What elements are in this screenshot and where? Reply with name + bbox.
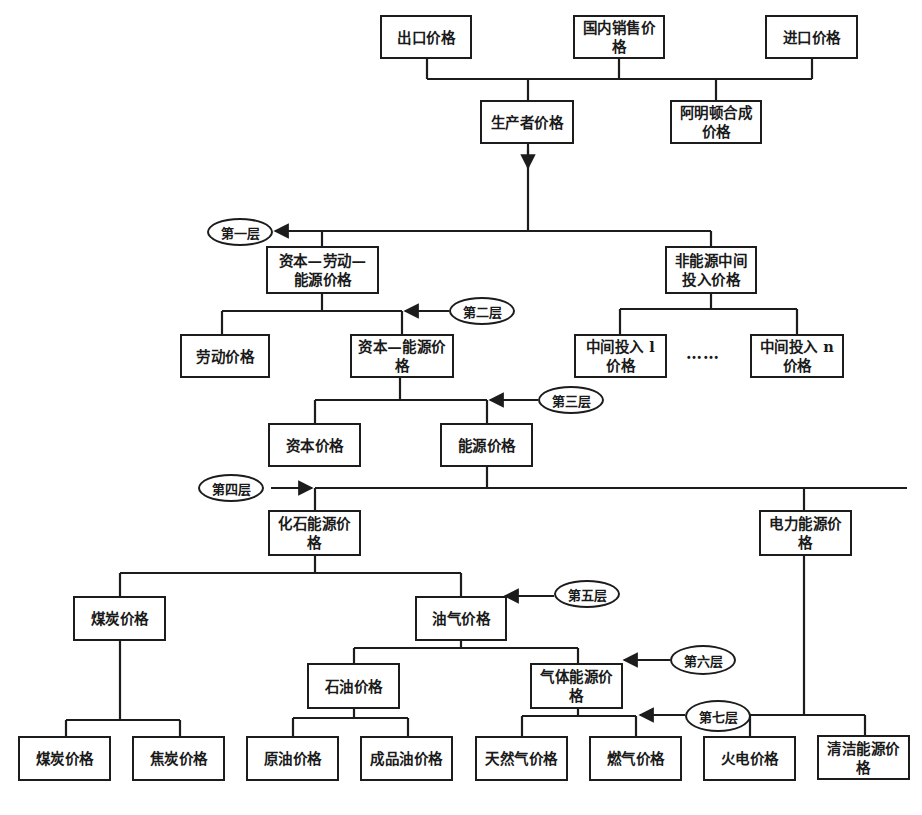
ke-price-box: 资本—能源价格 (350, 334, 454, 378)
producer-price-box: 生产者价格 (480, 100, 574, 144)
crude-oil-price-box: 原油价格 (246, 736, 339, 781)
clean-energy-price-label: 清洁能源价格 (823, 739, 904, 777)
intermediate-1-box: 中间投入 l 价格 (574, 334, 667, 378)
price-hierarchy-diagram: 出口价格 国内销售价格 进口价格 生产者价格 阿明顿合成价格 第一层 资本—劳动… (0, 0, 922, 815)
layer-7-label: 第七层 (699, 707, 738, 726)
fossil-energy-price-box: 化石能源价格 (268, 510, 361, 556)
armington-price-box: 阿明顿合成价格 (670, 100, 762, 144)
layer-6-label: 第六层 (684, 651, 723, 670)
intermediate-1-label: 中间投入 l 价格 (580, 337, 661, 375)
intermediate-n-label: 中间投入 n 价格 (756, 337, 838, 375)
import-price-label: 进口价格 (783, 28, 841, 47)
fuel-gas-price-box: 燃气价格 (589, 736, 682, 781)
coke-price-box: 焦炭价格 (132, 736, 225, 781)
ke-price-label: 资本—能源价格 (356, 337, 448, 375)
coal-price-label: 煤炭价格 (36, 749, 94, 768)
thermal-power-price-box: 火电价格 (703, 736, 796, 781)
refined-oil-price-label: 成品油价格 (370, 749, 443, 768)
gas-energy-price-box: 气体能源价格 (530, 663, 623, 709)
oil-gas-price-box: 油气价格 (415, 596, 507, 641)
layer-2-label: 第二层 (463, 302, 502, 321)
export-price-box: 出口价格 (380, 15, 472, 59)
labor-price-label: 劳动价格 (196, 347, 254, 366)
layer-6-badge: 第六层 (670, 645, 736, 675)
layer-2-badge: 第二层 (449, 297, 515, 325)
layer-3-badge: 第三层 (538, 386, 604, 414)
energy-price-box: 能源价格 (440, 423, 533, 467)
domestic-sales-price-box: 国内销售价格 (573, 15, 665, 59)
fuel-gas-price-label: 燃气价格 (607, 749, 665, 768)
labor-price-box: 劳动价格 (180, 334, 270, 378)
layer-7-badge: 第七层 (685, 700, 751, 732)
intermediate-n-box: 中间投入 n 价格 (750, 334, 844, 378)
import-price-box: 进口价格 (765, 15, 858, 59)
electric-energy-price-box: 电力能源价格 (759, 510, 852, 556)
gas-energy-price-label: 气体能源价格 (536, 667, 617, 705)
layer-4-badge: 第四层 (198, 474, 264, 502)
electric-energy-price-label: 电力能源价格 (765, 514, 846, 552)
oil-gas-price-label: 油气价格 (432, 609, 490, 628)
crude-oil-price-label: 原油价格 (264, 749, 322, 768)
natural-gas-price-label: 天然气价格 (485, 749, 558, 768)
kle-price-box: 资本—劳动—能源价格 (266, 246, 379, 294)
coal-price-box: 煤炭价格 (18, 736, 111, 781)
producer-price-label: 生产者价格 (491, 113, 564, 132)
petroleum-price-box: 石油价格 (307, 663, 400, 709)
thermal-power-price-label: 火电价格 (721, 749, 779, 768)
capital-price-box: 资本价格 (268, 423, 361, 467)
coke-price-label: 焦炭价格 (150, 749, 208, 768)
petroleum-price-label: 石油价格 (325, 677, 383, 696)
domestic-sales-price-label: 国内销售价格 (579, 18, 659, 56)
non-energy-intermediate-box: 非能源中间投入价格 (665, 246, 757, 294)
clean-energy-price-box: 清洁能源价格 (817, 735, 910, 780)
armington-price-label: 阿明顿合成价格 (676, 103, 756, 141)
layer-4-label: 第四层 (212, 479, 251, 498)
kle-price-label: 资本—劳动—能源价格 (272, 251, 373, 289)
natural-gas-price-box: 天然气价格 (475, 736, 568, 781)
layer-5-label: 第五层 (568, 585, 607, 604)
layer-1-badge: 第一层 (207, 218, 273, 246)
layer-3-label: 第三层 (552, 391, 591, 410)
connector-lines (0, 0, 922, 815)
layer-5-badge: 第五层 (554, 580, 620, 608)
refined-oil-price-box: 成品油价格 (360, 736, 453, 781)
fossil-energy-price-label: 化石能源价格 (274, 514, 355, 552)
capital-price-label: 资本价格 (286, 436, 344, 455)
coal-group-price-box: 煤炭价格 (73, 596, 166, 641)
coal-group-price-label: 煤炭价格 (91, 609, 149, 628)
non-energy-intermediate-label: 非能源中间投入价格 (671, 251, 751, 289)
ellipsis-text: …… (686, 344, 720, 363)
energy-price-label: 能源价格 (458, 436, 516, 455)
layer-1-label: 第一层 (221, 223, 260, 242)
export-price-label: 出口价格 (397, 28, 455, 47)
